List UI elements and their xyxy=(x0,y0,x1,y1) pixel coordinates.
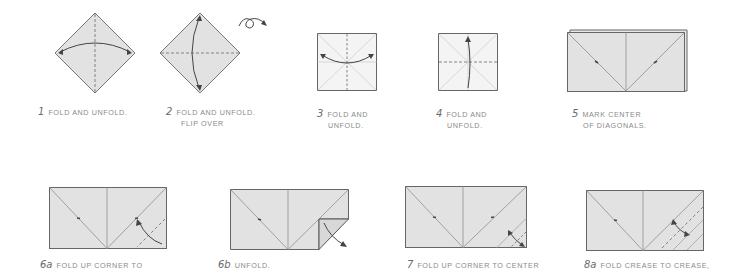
step-6b-caption: 6bUNFOLD. xyxy=(218,259,270,271)
step-number: 1 xyxy=(38,106,44,117)
step-number: 6a xyxy=(40,259,53,270)
step-8a-diagram xyxy=(586,190,704,251)
step-6a-caption: 6aFOLD UP CORNER TO xyxy=(40,259,143,271)
step-8a-caption: 8aFOLD CREASE TO CREASE, xyxy=(584,259,710,271)
step-6a-diagram xyxy=(49,187,167,249)
step-3-caption: 3FOLD AND UNFOLD. xyxy=(317,108,368,131)
step-1-caption: 1FOLD AND UNFOLD. xyxy=(38,106,127,118)
step-1-diagram xyxy=(54,12,136,94)
step-5-caption: 5MARK CENTER OF DIAGONALS. xyxy=(572,108,647,131)
step-3-diagram xyxy=(317,33,377,91)
step-2-caption: 2FOLD AND UNFOLD. FLIP OVER xyxy=(166,106,255,129)
step-number: 7 xyxy=(407,259,413,270)
step-number: 3 xyxy=(317,108,323,119)
step-number: 2 xyxy=(166,106,172,117)
step-7-caption: 7FOLD UP CORNER TO CENTER xyxy=(407,259,539,271)
step-5-diagram xyxy=(567,29,689,93)
step-4-caption: 4FOLD AND UNFOLD. xyxy=(436,108,487,131)
step-number: 4 xyxy=(436,108,442,119)
step-number: 6b xyxy=(218,259,231,270)
step-6b-diagram xyxy=(230,189,360,253)
step-number: 8a xyxy=(584,259,597,270)
step-number: 5 xyxy=(572,108,578,119)
flip-over-arrow-icon xyxy=(237,14,271,32)
step-2-diagram xyxy=(159,12,241,94)
step-7-diagram xyxy=(405,186,527,248)
step-4-diagram xyxy=(438,33,498,91)
